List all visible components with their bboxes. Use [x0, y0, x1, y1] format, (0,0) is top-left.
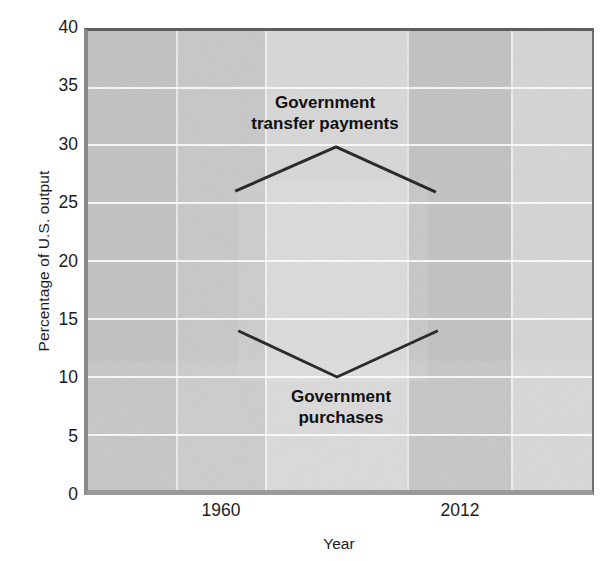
y-tick-5: 5 — [34, 428, 78, 446]
label-government-purchases: Government purchases — [291, 387, 391, 428]
label-transfer-payments: Government transfer payments — [251, 93, 398, 134]
y-tick-35: 35 — [34, 78, 78, 96]
label-transfer-line2: transfer payments — [251, 114, 398, 135]
y-tick-30: 30 — [34, 136, 78, 154]
plot-area: Government transfer payments Government … — [84, 28, 594, 495]
label-purchases-line1: Government — [291, 387, 391, 408]
x-axis-tick-labels: 1960 2012 — [84, 502, 594, 528]
x-tick-2012: 2012 — [441, 502, 480, 520]
label-purchases-line2: purchases — [291, 408, 391, 429]
y-tick-40: 40 — [34, 19, 78, 37]
y-tick-10: 10 — [34, 370, 78, 388]
line-government-purchases — [238, 331, 438, 377]
y-tick-15: 15 — [34, 311, 78, 329]
chart-figure: Percentage of U.S. output 40 35 30 25 20… — [0, 0, 602, 561]
y-tick-20: 20 — [34, 253, 78, 271]
x-tick-1960: 1960 — [202, 502, 241, 520]
line-transfer-payments — [235, 147, 436, 192]
x-axis-label: Year — [84, 535, 594, 553]
label-transfer-line1: Government — [251, 93, 398, 114]
y-axis-tick-labels: 40 35 30 25 20 15 10 5 0 — [34, 28, 78, 495]
y-tick-0: 0 — [34, 486, 78, 504]
y-tick-25: 25 — [34, 194, 78, 212]
